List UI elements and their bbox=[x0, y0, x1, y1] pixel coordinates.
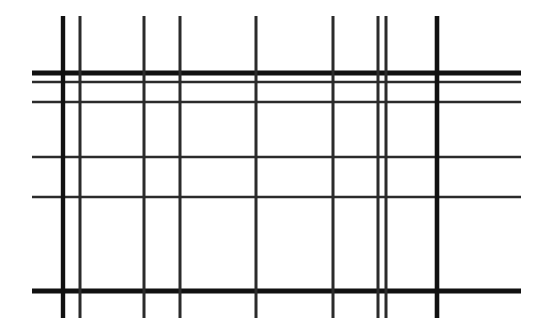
grid-lattice-drawing bbox=[0, 0, 540, 330]
figure-canvas bbox=[0, 0, 540, 330]
